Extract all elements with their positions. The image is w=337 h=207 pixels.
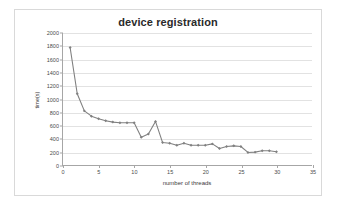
x-tick-mark	[313, 165, 314, 168]
x-tick-label: 10	[131, 169, 137, 175]
data-point-marker	[182, 142, 185, 145]
data-point-marker	[104, 119, 107, 122]
data-point-marker	[126, 121, 129, 124]
x-tick-mark	[134, 165, 135, 168]
x-tick-mark	[206, 165, 207, 168]
x-tick-mark	[99, 165, 100, 168]
data-point-marker	[275, 150, 278, 153]
y-tick-label: 200	[50, 150, 59, 156]
series-line-device-registration	[63, 33, 312, 165]
data-point-marker	[261, 149, 264, 152]
data-point-marker	[118, 121, 121, 124]
y-tick-label: 0	[56, 163, 59, 169]
chart-frame: device registration time(s) 020040060080…	[14, 9, 322, 196]
data-point-marker	[204, 144, 207, 147]
data-point-marker	[76, 92, 79, 95]
y-tick-label: 1600	[47, 57, 59, 63]
x-tick-label: 25	[239, 169, 245, 175]
x-tick-mark	[277, 165, 278, 168]
x-tick-label: 30	[274, 169, 280, 175]
data-point-marker	[197, 144, 200, 147]
x-tick-label: 15	[167, 169, 173, 175]
data-point-marker	[168, 142, 171, 145]
x-tick-label: 5	[97, 169, 100, 175]
x-axis-label: number of threads	[62, 180, 312, 186]
x-tick-label: 0	[61, 169, 64, 175]
x-tick-label: 35	[310, 169, 316, 175]
x-tick-mark	[242, 165, 243, 168]
data-point-marker	[254, 151, 257, 154]
y-tick-label: 600	[50, 123, 59, 129]
y-tick-label: 400	[50, 136, 59, 142]
data-point-marker	[225, 145, 228, 148]
plot-area: 0200400600800100012001400160018002000 05…	[62, 33, 312, 166]
y-tick-label: 1200	[47, 83, 59, 89]
y-tick-label: 800	[50, 110, 59, 116]
data-point-marker	[97, 117, 100, 120]
chart-title: device registration	[15, 16, 321, 28]
y-tick-label: 1000	[47, 97, 59, 103]
data-point-marker	[175, 144, 178, 147]
y-tick-label: 2000	[47, 30, 59, 36]
y-axis-label: time(s)	[34, 92, 40, 109]
chart-figure: device registration time(s) 020040060080…	[0, 0, 337, 207]
x-tick-mark	[170, 165, 171, 168]
y-tick-label: 1800	[47, 43, 59, 49]
data-point-marker	[111, 121, 114, 124]
data-point-marker	[232, 144, 235, 147]
data-point-marker	[190, 144, 193, 147]
data-point-marker	[69, 46, 72, 49]
data-point-marker	[161, 141, 164, 144]
y-tick-label: 1400	[47, 70, 59, 76]
x-tick-mark	[63, 165, 64, 168]
data-point-marker	[268, 149, 271, 152]
x-tick-label: 20	[203, 169, 209, 175]
